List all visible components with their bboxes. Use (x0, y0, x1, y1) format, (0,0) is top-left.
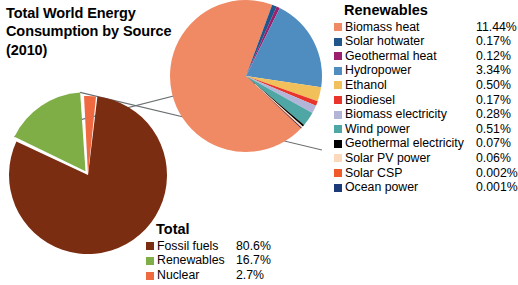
legend-item-value: 0.12% (476, 49, 511, 64)
legend-item-label: Solar CSP (345, 166, 476, 181)
legend-item-label: Fossil fuels (157, 239, 236, 254)
renewables-swatch-icon (334, 52, 342, 60)
renewables-swatch-icon (334, 23, 342, 31)
legend-item: Ethanol0.50% (334, 78, 518, 93)
legend-item-value: 0.50% (476, 78, 511, 93)
renewables-swatch-icon (334, 96, 342, 104)
legend-item-label: Solar PV power (345, 151, 476, 166)
chart-figure: Total World Energy Consumption by Source… (0, 0, 518, 285)
legend-item-value: 11.44% (476, 20, 517, 35)
total-swatch-icon (146, 242, 154, 250)
legend-item: Solar hotwater0.17% (334, 34, 518, 49)
legend-item-label: Geothermal electricity (345, 136, 476, 151)
legend-item: Solar CSP0.002% (334, 166, 518, 181)
renewables-swatch-icon (334, 125, 342, 133)
legend-item-value: 0.28% (476, 107, 511, 122)
renewables-swatch-icon (334, 111, 342, 119)
legend-item-label: Solar hotwater (345, 34, 476, 49)
legend-item-value: 0.17% (476, 93, 511, 108)
total-legend-heading: Total (156, 221, 326, 238)
renewables-swatch-icon (334, 140, 342, 148)
legend-item: Biodiesel0.17% (334, 93, 518, 108)
legend-item-value: 0.51% (476, 122, 511, 137)
legend-item-label: Nuclear (157, 268, 236, 283)
legend-item-label: Wind power (345, 122, 476, 137)
legend-item: Hydropower3.34% (334, 63, 518, 78)
legend-item-label: Hydropower (345, 63, 476, 78)
renewables-swatch-icon (334, 81, 342, 89)
renewables-breakout-pie (170, 0, 322, 152)
total-swatch-icon (146, 257, 154, 265)
legend-item-label: Ethanol (345, 78, 476, 93)
renewables-swatch-icon (334, 38, 342, 46)
renewables-legend-heading: Renewables (344, 2, 518, 19)
renewables-swatch-icon (334, 169, 342, 177)
legend-item: Solar PV power0.06% (334, 151, 518, 166)
renewables-legend-rows: Biomass heat11.44%Solar hotwater0.17%Geo… (334, 20, 518, 195)
total-legend-rows: Fossil fuels80.6%Renewables16.7%Nuclear2… (146, 239, 326, 283)
legend-item-label: Renewables (157, 253, 236, 268)
legend-item-label: Biomass electricity (345, 107, 476, 122)
renewables-swatch-icon (334, 67, 342, 75)
legend-item-value: 0.06% (476, 151, 511, 166)
legend-item: Biomass heat11.44% (334, 20, 518, 35)
renewables-swatch-icon (334, 184, 342, 192)
legend-item-value: 0.001% (476, 180, 518, 195)
legend-item-label: Ocean power (345, 180, 476, 195)
legend-item-value: 0.07% (476, 136, 511, 151)
legend-item: Renewables16.7% (146, 253, 326, 268)
legend-item: Biomass electricity0.28% (334, 107, 518, 122)
legend-item: Geothermal electricity0.07% (334, 136, 518, 151)
legend-item: Nuclear2.7% (146, 268, 326, 283)
total-energy-pie (9, 92, 167, 254)
legend-item-label: Biomass heat (345, 20, 476, 35)
legend-item: Ocean power0.001% (334, 180, 518, 195)
legend-item: Wind power0.51% (334, 122, 518, 137)
legend-item-label: Geothermal heat (345, 49, 476, 64)
legend-item-value: 2.7% (236, 268, 264, 283)
total-legend: Total Fossil fuels80.6%Renewables16.7%Nu… (146, 221, 326, 283)
legend-item-label: Biodiesel (345, 93, 476, 108)
legend-item-value: 80.6% (236, 239, 271, 254)
legend-item-value: 0.002% (476, 166, 518, 181)
legend-item-value: 0.17% (476, 34, 511, 49)
legend-item: Geothermal heat0.12% (334, 49, 518, 64)
legend-item-value: 3.34% (476, 63, 511, 78)
renewables-legend: Renewables Biomass heat11.44%Solar hotwa… (334, 2, 518, 195)
total-swatch-icon (146, 272, 154, 280)
renewables-swatch-icon (334, 154, 342, 162)
legend-item: Fossil fuels80.6% (146, 239, 326, 254)
legend-item-value: 16.7% (236, 253, 271, 268)
